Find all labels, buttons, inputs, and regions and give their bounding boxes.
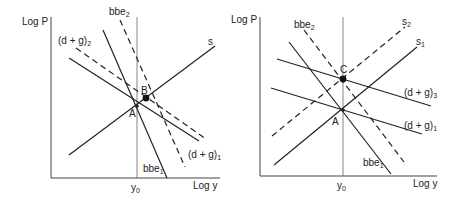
right-point-a xyxy=(341,108,345,112)
curve-sub: 3 xyxy=(433,92,437,99)
curve-sub: 2 xyxy=(87,40,91,47)
left-x-axis-label: Log y xyxy=(193,181,217,191)
tick-sub: 0 xyxy=(342,185,346,192)
right-curve-dg1 xyxy=(271,88,422,134)
curve-base: (d + g) xyxy=(188,149,217,160)
curve-base: (d + g) xyxy=(404,87,433,98)
left-point-b-label: B xyxy=(141,86,148,96)
curve-base: bbe xyxy=(143,163,160,174)
right-x-tick-y0: y0 xyxy=(337,181,346,191)
curve-base: (d + g) xyxy=(404,120,433,131)
right-curve-bbe1 xyxy=(289,42,391,174)
left-label-bbe2: bbe2 xyxy=(109,7,130,17)
right-label-dg1: (d + g)1 xyxy=(404,121,437,131)
right-curve-bbe2 xyxy=(304,30,404,162)
curve-sub: 2 xyxy=(407,21,411,28)
curve-sub: 1 xyxy=(380,162,384,169)
left-y-axis-label: Log P xyxy=(22,17,48,27)
curve-sub: 2 xyxy=(311,24,315,31)
left-label-dg2: (d + g)2 xyxy=(58,36,91,46)
curve-sub: 2 xyxy=(126,11,130,18)
left-curve-dg1 xyxy=(69,58,199,141)
left-curve-s xyxy=(69,46,215,155)
right-label-s1: s1 xyxy=(416,37,425,47)
curve-base: (d + g) xyxy=(58,35,87,46)
diagram-canvas xyxy=(0,0,459,200)
curve-sub: 1 xyxy=(421,41,425,48)
curve-base: bbe xyxy=(363,157,380,168)
curve-sub: 1 xyxy=(160,168,164,175)
right-label-s2: s2 xyxy=(402,17,411,27)
left-point-a-label: A xyxy=(129,109,136,119)
left-label-s: s xyxy=(208,37,213,47)
curve-sub: 1 xyxy=(433,125,437,132)
right-label-dg3: (d + g)3 xyxy=(404,88,437,98)
curve-base: bbe xyxy=(109,6,126,17)
right-point-a-label: A xyxy=(332,117,339,127)
right-label-bbe2: bbe2 xyxy=(294,20,315,30)
left-label-dg1: (d + g)1 xyxy=(188,150,221,160)
tick-sub: 0 xyxy=(136,187,140,194)
curve-sub: 1 xyxy=(217,154,221,161)
curve-base: s xyxy=(208,36,213,47)
right-x-axis-label: Log y xyxy=(413,179,437,189)
right-y-axis-label: Log P xyxy=(231,15,257,25)
right-point-c-label: C xyxy=(340,65,347,75)
curve-base: bbe xyxy=(294,19,311,30)
left-label-bbe1: bbe1 xyxy=(143,164,164,174)
left-x-tick-y0: y0 xyxy=(131,183,140,193)
right-point-c xyxy=(340,76,347,83)
right-label-bbe1: bbe1 xyxy=(363,158,384,168)
